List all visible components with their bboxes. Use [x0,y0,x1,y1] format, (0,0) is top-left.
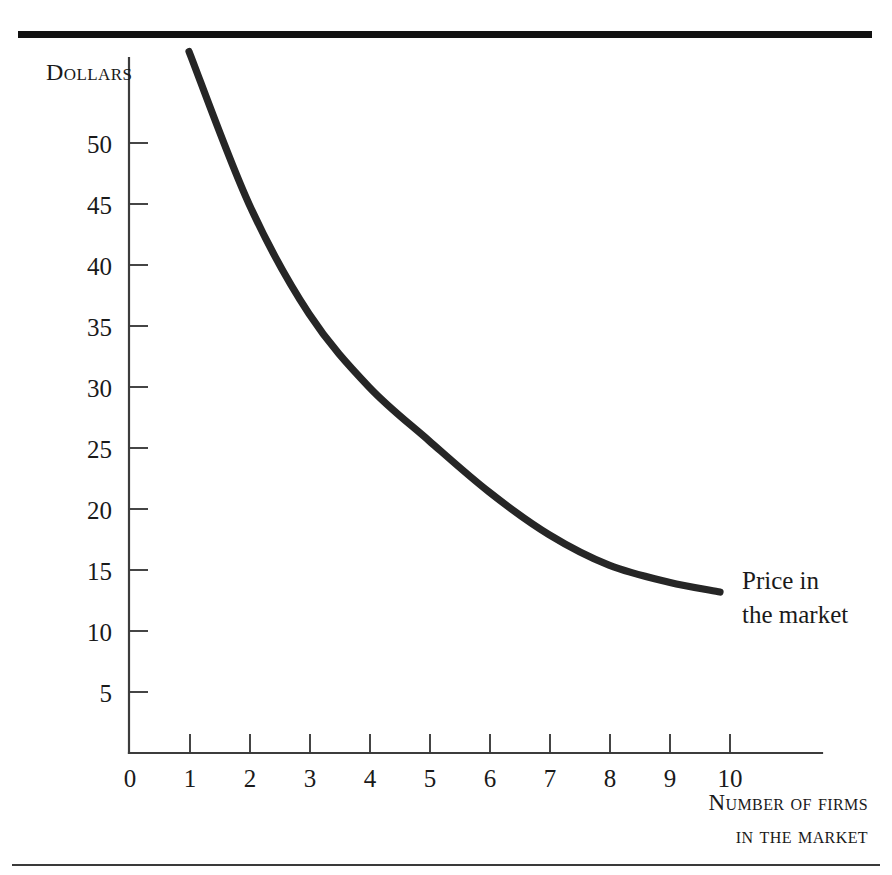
curve-annotation-line1: Price in [742,567,819,594]
x-tick-label-1: 1 [167,766,213,791]
price-curve [189,52,720,593]
y-tick-label-10: 10 [58,620,112,645]
x-tick-label-3: 3 [287,766,333,791]
x-tick-label-7: 7 [527,766,573,791]
y-tick-label-50: 50 [58,132,112,157]
plot-area [0,0,892,875]
x-axis-title: Number of firms in the market [596,786,868,853]
x-axis-title-line2: in the market [596,819,868,852]
curve-annotation-line2: the market [742,598,882,632]
y-tick-label-35: 35 [58,315,112,340]
y-tick-label-30: 30 [58,376,112,401]
y-tick-label-5: 5 [58,681,112,706]
x-tick-label-5: 5 [407,766,453,791]
curve-annotation: Price in the market [742,564,882,631]
bottom-rule [12,864,880,866]
y-tick-label-40: 40 [58,254,112,279]
figure-container: Dollars 50 45 40 35 30 25 20 15 10 5 0 1… [0,0,892,875]
y-tick-label-15: 15 [58,559,112,584]
x-tick-label-4: 4 [347,766,393,791]
x-axis-ticks [190,734,730,753]
y-tick-label-25: 25 [58,437,112,462]
y-axis-ticks [129,143,148,692]
x-tick-label-6: 6 [467,766,513,791]
x-tick-label-0: 0 [107,766,153,791]
y-axis-title: Dollars [46,60,132,84]
x-tick-label-2: 2 [227,766,273,791]
y-tick-label-20: 20 [58,498,112,523]
x-axis-title-line1: Number of firms [709,790,869,815]
y-tick-label-45: 45 [58,193,112,218]
